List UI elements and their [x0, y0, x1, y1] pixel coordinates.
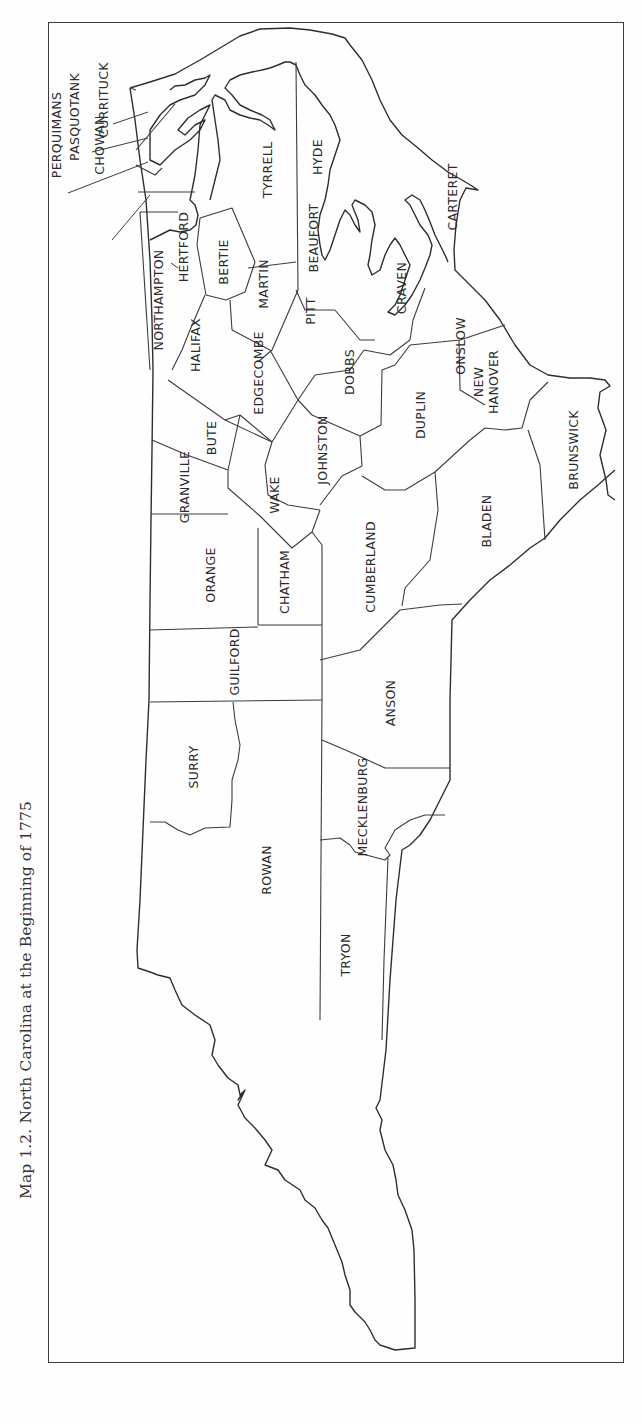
county-label-brunswick: BRUNSWICK [566, 410, 581, 490]
label-leader-lines [68, 112, 178, 268]
county-boundaries [130, 62, 548, 1040]
county-label-tryon: TRYON [338, 933, 353, 977]
county-label-pasquotank: PASQUOTANK [67, 73, 82, 161]
county-label-perquimans: PERQUIMANS [49, 92, 64, 178]
map-page: Map 1.2. North Carolina at the Beginning… [0, 0, 642, 1424]
county-label-new: NEW [471, 367, 486, 398]
county-label-carteret: CARTERET [445, 163, 460, 230]
county-label-mecklenburg: MECKLENBURG [355, 757, 370, 856]
county-label-hertford: HERTFORD [176, 212, 191, 282]
county-label-surry: SURRY [186, 746, 201, 789]
county-label-tyrrell: TYRRELL [260, 142, 275, 200]
county-label-onslow: ONSLOW [453, 317, 468, 375]
county-label-bladen: BLADEN [479, 494, 494, 547]
county-label-northampton: NORTHAMPTON [151, 250, 166, 351]
north-carolina-county-map: CURRITUCK PASQUOTANK PERQUIMANS CHOWAN N… [0, 0, 642, 1424]
county-label-guilford: GUILFORD [227, 628, 242, 695]
county-labels: CURRITUCK PASQUOTANK PERQUIMANS CHOWAN N… [49, 62, 581, 978]
county-label-martin: MARTIN [256, 259, 271, 309]
county-label-beaufort: BEAUFORT [306, 203, 321, 272]
county-label-bertie: BERTIE [216, 239, 231, 284]
county-label-rowan: ROWAN [259, 845, 274, 895]
county-label-edgecombe: EDGECOMBE [251, 331, 266, 415]
county-label-craven: CRAVEN [394, 262, 409, 314]
county-label-anson: ANSON [383, 680, 398, 727]
county-label-johnston: JOHNSTON [315, 415, 330, 485]
county-label-orange: ORANGE [203, 547, 218, 602]
county-label-hanover: HANOVER [486, 350, 501, 414]
county-label-bute: BUTE [204, 421, 219, 455]
county-label-dobbs: DOBBS [342, 349, 357, 395]
county-label-chatham: CHATHAM [277, 550, 292, 614]
county-label-granville: GRANVILLE [177, 451, 192, 524]
county-label-duplin: DUPLIN [413, 391, 428, 439]
tyrrell-shoreline [210, 62, 300, 200]
county-label-halifax: HALIFAX [188, 318, 203, 372]
county-label-pitt: PITT [303, 297, 318, 325]
county-label-wake: WAKE [267, 476, 282, 514]
county-label-chowan: CHOWAN [92, 115, 107, 174]
county-label-cumberland: CUMBERLAND [363, 521, 378, 613]
county-label-hyde: HYDE [310, 139, 325, 175]
pamlico-shoreline [300, 75, 448, 315]
